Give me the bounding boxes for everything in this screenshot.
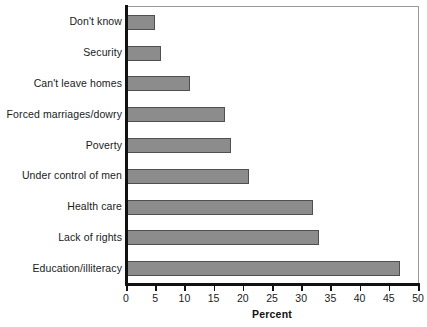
x-axis-title: Percent [126, 308, 418, 320]
category-label: Can't leave homes [0, 77, 122, 89]
x-tick [301, 285, 303, 291]
bar [126, 15, 155, 30]
bar [126, 230, 319, 245]
bar [126, 138, 231, 153]
x-tick-label: 10 [169, 292, 199, 305]
x-tick-label: 25 [257, 292, 287, 305]
x-tick [214, 285, 216, 291]
x-tick-label: 0 [111, 292, 141, 305]
category-axis-labels: Don't knowSecurityCan't leave homesForce… [0, 0, 122, 283]
bar-chart: Don't knowSecurityCan't leave homesForce… [0, 0, 427, 327]
x-tick [155, 285, 157, 291]
x-tick-label: 45 [374, 292, 404, 305]
x-tick [272, 285, 274, 291]
category-label: Lack of rights [0, 231, 122, 243]
x-tick-label: 20 [228, 292, 258, 305]
x-tick [243, 285, 245, 291]
x-tick [184, 285, 186, 291]
category-label: Health care [0, 200, 122, 212]
category-label: Forced marriages/dowry [0, 108, 122, 120]
x-tick [360, 285, 362, 291]
x-tick-label: 35 [315, 292, 345, 305]
x-tick-label: 5 [140, 292, 170, 305]
x-tick-label: 40 [345, 292, 375, 305]
x-tick [126, 285, 128, 291]
x-tick [389, 285, 391, 291]
x-tick-label: 50 [403, 292, 427, 305]
bar [126, 107, 225, 122]
y-axis-line [125, 5, 128, 285]
category-label: Under control of men [0, 169, 122, 181]
x-tick [330, 285, 332, 291]
bar [126, 169, 249, 184]
category-label: Don't know [0, 15, 122, 27]
x-tick-label: 15 [199, 292, 229, 305]
bar [126, 46, 161, 61]
plot-area [126, 6, 419, 285]
x-tick-label: 30 [286, 292, 316, 305]
bar [126, 200, 313, 215]
x-tick [418, 285, 420, 291]
bar [126, 76, 190, 91]
category-label: Security [0, 46, 122, 58]
category-label: Education/illiteracy [0, 262, 122, 274]
category-label: Poverty [0, 139, 122, 151]
bar [126, 261, 400, 276]
